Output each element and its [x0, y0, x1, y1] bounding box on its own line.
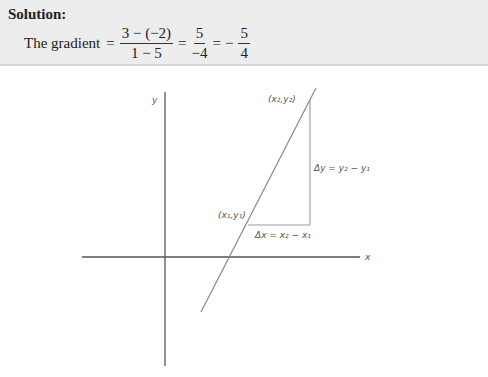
- sloped-line: [201, 88, 316, 312]
- delta-x-label: Δx = x₂ − x₁: [254, 230, 311, 240]
- y-axis-label: y: [151, 95, 158, 105]
- point-1-label: (x₁,y₁): [218, 210, 246, 220]
- gradient-diagram: y x (x₂,y₂) (x₁,y₁) Δy = y₂ − y₁ Δx = x₂…: [0, 0, 488, 377]
- x-axis-label: x: [364, 252, 371, 262]
- point-2-label: (x₂,y₂): [268, 94, 296, 104]
- delta-y-label: Δy = y₂ − y₁: [313, 163, 370, 173]
